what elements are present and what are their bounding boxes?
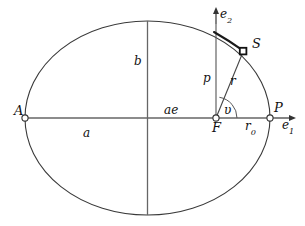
label-periapsis-radius: r0: [245, 120, 256, 135]
orbit-arc-accent: [214, 32, 242, 50]
label-basis-e1-subscript: 1: [289, 126, 294, 136]
label-periapsis-radius-base: r: [245, 119, 251, 133]
label-basis-e1: e1: [282, 119, 294, 134]
label-periapsis: P: [274, 101, 283, 114]
label-periapsis-radius-subscript: 0: [251, 127, 256, 137]
label-semi-minor-axis: b: [134, 55, 142, 67]
label-satellite: S: [252, 37, 261, 50]
label-radius: r: [230, 75, 236, 87]
label-true-anomaly: υ: [224, 104, 231, 116]
label-basis-e2-subscript: 2: [227, 15, 232, 25]
label-apoapsis: A: [14, 104, 23, 117]
label-basis-e2: e2: [220, 8, 232, 23]
label-focal-distance: ae: [164, 104, 178, 116]
label-semi-latus-rectum: p: [203, 72, 211, 84]
label-semi-major-axis: a: [83, 127, 90, 139]
periapsis-marker: [267, 115, 273, 121]
ellipse-orbit-diagram: A P S F a b ae p r υ r0 e1 e2: [0, 0, 305, 226]
satellite-marker: [240, 48, 247, 55]
e2-arrowhead-icon: [213, 7, 219, 14]
label-focus: F: [212, 121, 221, 134]
diagram-canvas: [0, 0, 305, 226]
